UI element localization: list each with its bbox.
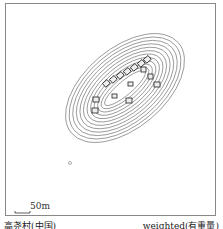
- caption-weighted: weighted(有重量): [143, 219, 219, 229]
- scale-bar-label: 50m: [30, 201, 50, 211]
- isolated-point: [69, 162, 72, 165]
- contour-map: [0, 0, 223, 229]
- contour-lines: [46, 12, 205, 163]
- caption-village: 高尧村(中国): [4, 219, 56, 229]
- scale-bar: [15, 211, 30, 213]
